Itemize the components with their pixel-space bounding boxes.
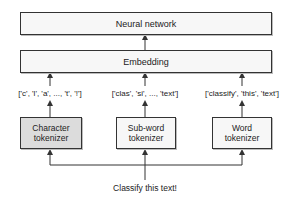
embedding-label: Embedding	[123, 57, 169, 67]
character-tokenizer-label-1: Character	[32, 123, 69, 133]
word-tokenizer-box: Word tokenizer	[212, 117, 272, 149]
word-tokenizer-label-2: tokenizer	[225, 133, 260, 143]
subword-tokenizer-box: Sub-word tokenizer	[116, 117, 176, 149]
character-tokenizer-label-2: tokenizer	[32, 133, 69, 143]
subword-tokenizer-label-1: Sub-word	[128, 123, 164, 133]
word-tokenizer-label-1: Word	[225, 123, 260, 133]
subword-tokenizer-label-2: tokenizer	[128, 133, 164, 143]
character-tokenizer-box: Character tokenizer	[20, 117, 82, 149]
neural-network-box: Neural network	[20, 12, 272, 35]
subword-tokens: ['clas', 'si', ..., 'text']	[112, 89, 179, 98]
embedding-box: Embedding	[20, 50, 272, 73]
input-text: Classify this text!	[113, 183, 177, 193]
neural-network-label: Neural network	[116, 19, 177, 29]
word-tokens: ['classify', 'this', 'text']	[205, 89, 279, 98]
character-tokens: ['c', 'l', 'a', ..., 't', '!']	[18, 89, 81, 98]
